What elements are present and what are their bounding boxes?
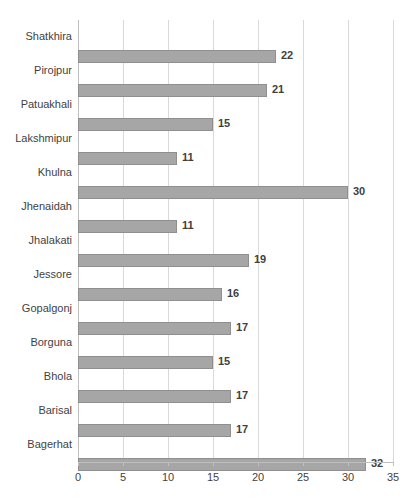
bar-value-label: 17 <box>236 422 248 436</box>
bar-row: 16 <box>78 278 393 312</box>
bar-row: 11 <box>78 210 393 244</box>
bar-khulna[interactable] <box>78 186 348 199</box>
bar-value-label: 11 <box>182 150 194 164</box>
bar-value-label: 17 <box>236 320 248 334</box>
x-tick-mark-25 <box>303 462 304 466</box>
x-tick-label-25: 25 <box>297 470 309 484</box>
bar-value-label: 16 <box>227 286 239 300</box>
category-label-borguna: Borguna <box>0 335 72 349</box>
category-label-bagerhat: Bagerhat <box>0 437 72 451</box>
bar-pirojpur[interactable] <box>78 84 267 97</box>
bar-row: 21 <box>78 74 393 108</box>
bar-row: 19 <box>78 244 393 278</box>
bar-gopalgonj[interactable] <box>78 322 231 335</box>
bar-jessore[interactable] <box>78 288 222 301</box>
bar-value-label: 32 <box>371 456 383 470</box>
x-tick-label-10: 10 <box>162 470 174 484</box>
x-axis-line <box>78 462 393 463</box>
bar-value-label: 22 <box>281 48 293 62</box>
bar-value-label: 30 <box>353 184 365 198</box>
bar-row: 17 <box>78 312 393 346</box>
category-label-jessore: Jessore <box>0 267 72 281</box>
category-label-khulna: Khulna <box>0 165 72 179</box>
category-label-shatkhira: Shatkhira <box>0 29 72 43</box>
category-label-jhalakati: Jhalakati <box>0 233 72 247</box>
bar-value-label: 19 <box>254 252 266 266</box>
category-label-jhenaidah: Jhenaidah <box>0 199 72 213</box>
bar-jhenaidah[interactable] <box>78 220 177 233</box>
bar-row: 15 <box>78 108 393 142</box>
x-tick-mark-35 <box>393 462 394 466</box>
bar-value-label: 21 <box>272 82 284 96</box>
bar-borguna[interactable] <box>78 356 213 369</box>
bar-patuakhali[interactable] <box>78 118 213 131</box>
category-label-lakshmipur: Lakshmipur <box>0 131 72 145</box>
category-label-barisal: Barisal <box>0 403 72 417</box>
bar-row: 30 <box>78 176 393 210</box>
bar-row: 11 <box>78 142 393 176</box>
bar-bhola[interactable] <box>78 390 231 403</box>
plot-area: 22211511301119161715171732 <box>78 20 393 462</box>
bar-shatkhira[interactable] <box>78 50 276 63</box>
x-tick-label-20: 20 <box>252 470 264 484</box>
x-tick-label-30: 30 <box>342 470 354 484</box>
x-tick-mark-30 <box>348 462 349 466</box>
category-label-patuakhali: Patuakhali <box>0 97 72 111</box>
x-tick-label-0: 0 <box>75 470 81 484</box>
bar-value-label: 17 <box>236 388 248 402</box>
bar-value-label: 15 <box>218 116 230 130</box>
category-label-bhola: Bhola <box>0 369 72 383</box>
x-tick-mark-0 <box>78 462 79 466</box>
x-tick-label-35: 35 <box>387 470 399 484</box>
x-tick-mark-10 <box>168 462 169 466</box>
bar-barisal[interactable] <box>78 424 231 437</box>
x-tick-label-5: 5 <box>120 470 126 484</box>
x-tick-mark-5 <box>123 462 124 466</box>
bar-row: 17 <box>78 414 393 448</box>
x-tick-mark-15 <box>213 462 214 466</box>
category-label-gopalgonj: Gopalgonj <box>0 301 72 315</box>
bar-row: 17 <box>78 380 393 414</box>
bar-value-label: 11 <box>182 218 194 232</box>
bar-lakshmipur[interactable] <box>78 152 177 165</box>
x-tick-label-15: 15 <box>207 470 219 484</box>
category-label-pirojpur: Pirojpur <box>0 63 72 77</box>
bar-value-label: 15 <box>218 354 230 368</box>
bar-jhalakati[interactable] <box>78 254 249 267</box>
bar-chart: 22211511301119161715171732 0510152025303… <box>0 0 417 503</box>
gridline-35 <box>393 20 394 462</box>
x-tick-mark-20 <box>258 462 259 466</box>
bar-row: 15 <box>78 346 393 380</box>
bar-row: 22 <box>78 40 393 74</box>
